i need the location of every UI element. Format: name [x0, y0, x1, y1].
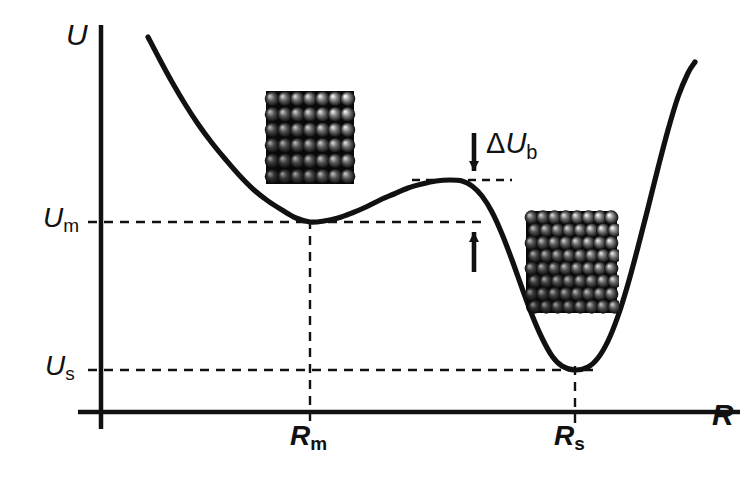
tick-label-u-m: Um: [43, 204, 79, 235]
tick-label-r-s: Rs: [554, 422, 585, 453]
tick-label-u-m-symbol: U: [43, 202, 63, 233]
barrier-delta-symbol: Δ: [486, 127, 505, 159]
tick-label-u-m-subscript: m: [63, 215, 79, 236]
tick-label-r-m-subscript: m: [310, 433, 327, 454]
barrier-u-symbol: U: [505, 127, 526, 159]
tick-label-u-s-subscript: s: [65, 363, 75, 384]
potential-energy-curve: [148, 37, 695, 370]
tick-label-u-s-symbol: U: [45, 350, 65, 381]
tick-label-r-s-symbol: R: [554, 420, 574, 451]
tick-label-r-m-symbol: R: [290, 420, 310, 451]
y-axis-label: U: [66, 20, 88, 50]
x-axis-label: R: [712, 400, 734, 430]
potential-energy-diagram: U R Um Us Rm Rs ΔUb: [0, 0, 752, 481]
tick-label-u-s: Us: [45, 352, 75, 383]
tick-label-r-s-subscript: s: [574, 433, 585, 454]
cluster-image-stable: [524, 209, 619, 315]
barrier-height-label: ΔUb: [486, 129, 537, 162]
cluster-image-metastable: [264, 89, 356, 186]
plot-canvas: [0, 0, 752, 481]
tick-label-r-m: Rm: [290, 422, 327, 453]
barrier-subscript: b: [526, 141, 537, 163]
